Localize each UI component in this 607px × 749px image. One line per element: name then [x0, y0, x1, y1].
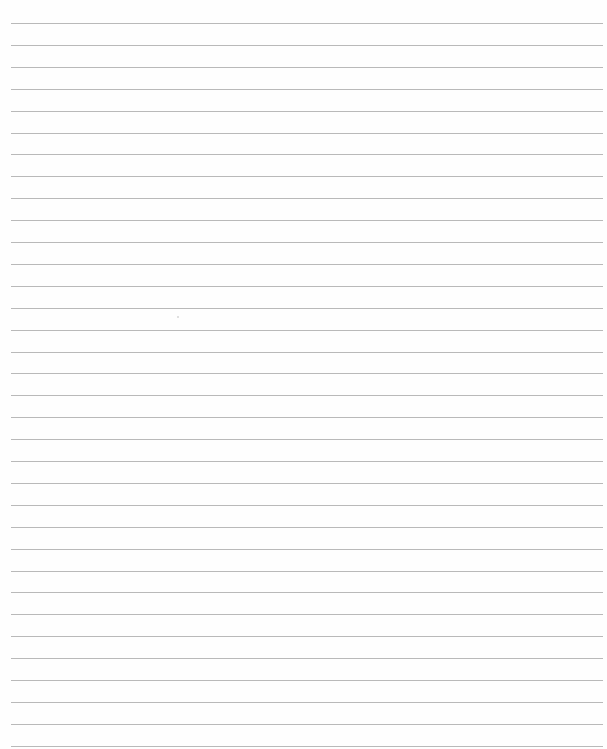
ruled-line [11, 505, 603, 506]
ruled-line [11, 373, 603, 374]
ruled-line [11, 45, 603, 46]
ruled-line [11, 23, 603, 24]
ruled-line [11, 352, 603, 353]
ruled-line [11, 308, 603, 309]
ruled-line [11, 242, 603, 243]
ruled-line [11, 133, 603, 134]
ruled-line [11, 89, 603, 90]
ruled-line [11, 198, 603, 199]
lined-paper-sheet [0, 0, 607, 749]
ruled-line [11, 614, 603, 615]
ruled-line [11, 220, 603, 221]
ruled-line [11, 571, 603, 572]
ruled-line [11, 330, 603, 331]
ruled-line [11, 527, 603, 528]
ruled-line [11, 746, 603, 747]
ruled-line [11, 724, 603, 725]
ruled-line [11, 176, 603, 177]
ruled-line [11, 549, 603, 550]
ruled-line [11, 658, 603, 659]
ruled-line [11, 702, 603, 703]
ruled-line [11, 111, 603, 112]
ruled-line [11, 483, 603, 484]
ruled-line [11, 67, 603, 68]
paper-speck [177, 316, 179, 318]
ruled-line [11, 417, 603, 418]
ruled-line [11, 264, 603, 265]
ruled-line [11, 461, 603, 462]
ruled-line [11, 154, 603, 155]
ruled-line [11, 395, 603, 396]
ruled-line [11, 286, 603, 287]
ruled-line [11, 592, 603, 593]
ruled-line [11, 636, 603, 637]
ruled-line [11, 680, 603, 681]
ruled-line [11, 439, 603, 440]
